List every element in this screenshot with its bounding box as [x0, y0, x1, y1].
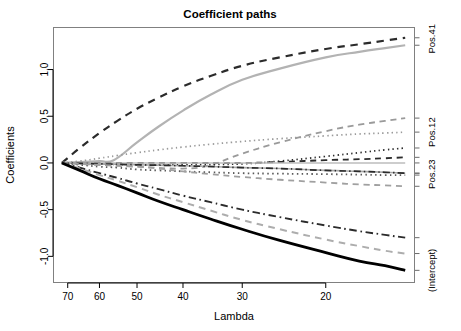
coefficient-paths-chart: 706050403020 1.00.50.0-0.5-1.0 Pos.41Pos…: [0, 0, 461, 331]
chart-canvas: 706050403020 1.00.50.0-0.5-1.0 Pos.41Pos…: [0, 0, 461, 331]
x-tick-label: 60: [94, 291, 106, 302]
y-tick-label: -0.5: [39, 201, 50, 219]
y-tick-label: -1.0: [39, 247, 50, 265]
x-tick-label: 20: [320, 291, 332, 302]
right-axis-label--intercept-: (Intercept): [426, 249, 437, 292]
y-axis-title: Coefficients: [4, 126, 16, 184]
right-axis-label-pos-12: Pos.12: [426, 117, 437, 147]
y-tick-label: 0.0: [39, 156, 50, 170]
x-tick-label: 30: [237, 291, 249, 302]
x-tick-label: 70: [62, 291, 74, 302]
x-axis-title: Lambda: [214, 310, 255, 322]
x-tick-label: 40: [177, 291, 189, 302]
chart-title: Coefficient paths: [183, 8, 276, 20]
right-axis-label-pos-23: Pos.23: [426, 159, 437, 189]
y-tick-label: 0.5: [39, 109, 50, 123]
y-tick-label: 1.0: [39, 62, 50, 76]
x-tick-label: 50: [131, 291, 143, 302]
right-axis-label-pos-41: Pos.41: [426, 24, 437, 54]
